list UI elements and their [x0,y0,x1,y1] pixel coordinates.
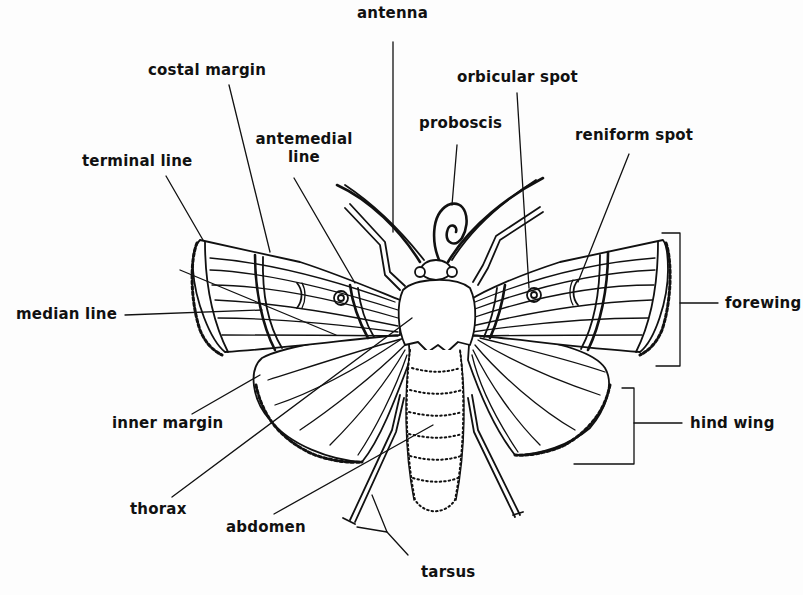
label-orbicular-spot: orbicular spot [457,68,578,86]
label-antemedial-line-1: antemedial [254,130,354,148]
label-tarsus: tarsus [421,563,475,581]
label-terminal-line: terminal line [82,152,192,170]
label-abdomen: abdomen [226,518,306,536]
label-proboscis: proboscis [419,114,502,132]
label-inner-margin: inner margin [112,414,223,432]
moth-anatomy-diagram: antenna costal margin orbicular spot pro… [0,0,803,595]
label-antemedial-line-2: line [254,148,354,166]
antennae [337,178,543,262]
label-antenna: antenna [357,4,428,22]
label-antemedial-line: antemedial line [254,130,354,166]
label-costal-margin: costal margin [148,61,266,79]
body [399,260,476,511]
forewing-left [192,240,400,355]
forewing-right [470,240,670,355]
label-forewing: forewing [725,294,801,312]
label-hind-wing: hind wing [690,414,775,432]
label-reniform-spot: reniform spot [575,126,693,144]
moth-illustration [0,0,803,595]
proboscis [434,204,466,262]
label-median-line: median line [16,305,117,323]
label-thorax: thorax [130,500,187,518]
